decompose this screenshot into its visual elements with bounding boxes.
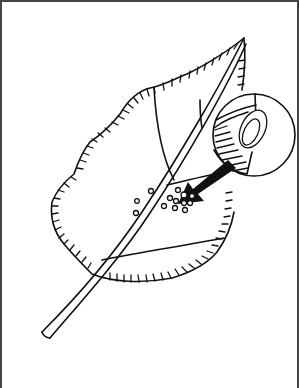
- leaf-illustration: [2, 2, 299, 388]
- magnified-egg: [234, 106, 273, 152]
- figure-frame: [0, 0, 299, 388]
- leaf-vein-2: [200, 100, 202, 128]
- leaf-serration: [52, 43, 238, 268]
- leaf-serration-bottom: [110, 192, 232, 282]
- leaf-midrib-stem: [42, 40, 243, 332]
